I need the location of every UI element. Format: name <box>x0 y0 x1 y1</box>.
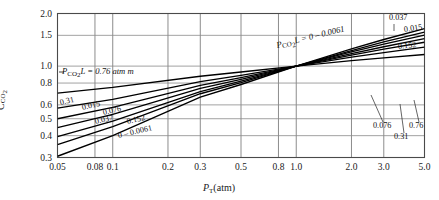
curve-label-right-0.152: 0.152 <box>398 40 417 51</box>
y-axis-title: CCO2 <box>0 90 9 110</box>
x-tick-label-0.05: 0.05 <box>49 162 66 172</box>
left-annotation-sub: CO <box>67 70 77 78</box>
y-tick-label-0.6: 0.6 <box>20 100 52 110</box>
y-tick-label-1.5: 1.5 <box>20 30 52 40</box>
x-tick-label-3.0: 3.0 <box>378 162 390 172</box>
left-annotation: PCO2L = 0.76 atm m <box>62 66 134 79</box>
x-tick-label-0.1: 0.1 <box>107 162 119 172</box>
y-tick-label-0.4: 0.4 <box>20 131 52 141</box>
x-tick-label-0.08: 0.08 <box>87 162 104 172</box>
x-tick-label-0.2: 0.2 <box>162 162 174 172</box>
x-tick-label-2.0: 2.0 <box>346 162 358 172</box>
y-axis-title-sub: CO <box>0 94 7 104</box>
curve-label-right-0.31: 0.31 <box>394 132 408 141</box>
x-axis-title-unit: (atm) <box>213 182 235 193</box>
x-tick-label-0.8: 0.8 <box>273 162 285 172</box>
y-axis-title-c: C <box>0 103 6 110</box>
y-tick-label-0.3: 0.3 <box>20 153 52 163</box>
left-annotation-rest: L = 0.76 atm m <box>80 66 133 76</box>
y-tick-label-2.0: 2.0 <box>20 9 52 19</box>
y-tick-label-1.0: 1.0 <box>20 61 52 71</box>
curve-label-right-0.076: 0.076 <box>373 121 391 130</box>
x-tick-label-5.0: 5.0 <box>419 162 431 172</box>
curve-label-right-0.76: 0.76 <box>409 121 423 130</box>
y-tick-label-0.5: 0.5 <box>20 114 52 124</box>
leader-line-0.076 <box>371 95 383 122</box>
x-tick-label-0.3: 0.3 <box>194 162 206 172</box>
x-tick-label-1.0: 1.0 <box>290 162 302 172</box>
x-axis-title: PT(atm) <box>203 182 235 195</box>
y-axis-title-sub2: 2 <box>1 90 9 94</box>
y-tick-label-0.8: 0.8 <box>20 78 52 88</box>
chart-figure: CCO2 PT(atm) 0.050.080.10.20.30.50.81.02… <box>0 0 439 200</box>
x-tick-label-0.5: 0.5 <box>235 162 247 172</box>
curve-label-right-0.037: 0.037 <box>389 13 407 22</box>
